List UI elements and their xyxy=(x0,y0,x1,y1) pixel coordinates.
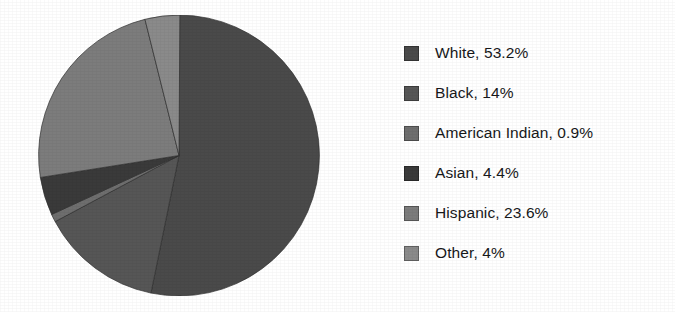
legend-swatch-icon xyxy=(404,246,419,261)
legend-item[interactable]: Hispanic, 23.6% xyxy=(404,193,666,233)
legend-item-label: Asian, 4.4% xyxy=(435,165,519,181)
pie-svg xyxy=(38,15,320,296)
legend-item[interactable]: White, 53.2% xyxy=(404,33,666,73)
legend-item-label: Hispanic, 23.6% xyxy=(435,205,549,221)
legend-item-label: Black, 14% xyxy=(435,85,514,101)
chart-legend: White, 53.2%Black, 14%American Indian, 0… xyxy=(404,33,666,273)
legend-item-label: White, 53.2% xyxy=(435,45,528,61)
legend-swatch-icon xyxy=(404,86,419,101)
pie-chart-graphic xyxy=(38,15,320,296)
legend-item[interactable]: Asian, 4.4% xyxy=(404,153,666,193)
pie-slice-group xyxy=(39,15,320,296)
legend-item[interactable]: Black, 14% xyxy=(404,73,666,113)
legend-item-label: Other, 4% xyxy=(435,245,505,261)
legend-swatch-icon xyxy=(404,46,419,61)
legend-item[interactable]: American Indian, 0.9% xyxy=(404,113,666,153)
legend-swatch-icon xyxy=(404,126,419,141)
legend-item-label: American Indian, 0.9% xyxy=(435,125,593,141)
pie-chart-figure: White, 53.2%Black, 14%American Indian, 0… xyxy=(0,0,675,312)
legend-item[interactable]: Other, 4% xyxy=(404,233,666,273)
legend-swatch-icon xyxy=(404,166,419,181)
legend-swatch-icon xyxy=(404,206,419,221)
